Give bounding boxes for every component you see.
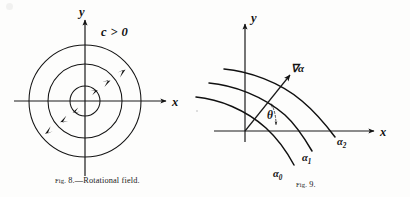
fig8-x-axis-label: x: [171, 95, 178, 109]
fig8-arrow-middle-upper: [103, 80, 111, 87]
fig9-angle-label: θ: [267, 109, 273, 121]
fig8-arrow-middle-lower: [60, 116, 68, 123]
fig9-label-alpha0: α0: [273, 168, 283, 182]
fig8-y-axis-label: y: [77, 5, 85, 19]
fig9-x-axis-label: x: [379, 125, 386, 139]
fig9-level-curve-labels: α2 α1 α0: [273, 136, 347, 182]
figures-canvas: x y c > 0 x y: [0, 0, 410, 197]
figure-8-group: x y c > 0: [14, 5, 178, 176]
figure-9-caption: Fig. 9.: [296, 180, 316, 189]
fig8-arrow-outer-lower: [45, 126, 53, 134]
figure-9-group: x y ∇α θ α2 α1 α0: [196, 11, 386, 182]
fig9-gradient-label: ∇α: [291, 62, 305, 74]
fig9-y-axis-label: y: [249, 11, 257, 25]
figure-8-caption-prefix: Fig.: [55, 177, 66, 184]
figure-8-caption: Fig. 8.—Rotational field.: [55, 176, 140, 185]
fig9-level-curve-alpha2: [224, 69, 335, 137]
figure-9-caption-prefix: Fig.: [296, 181, 307, 188]
figure-9-caption-num: 9.: [309, 180, 316, 189]
figure-page: x y c > 0 x y: [0, 0, 410, 197]
fig8-arrow-outer-upper: [118, 70, 126, 78]
figure-8-caption-text: —Rotational field.: [75, 176, 140, 185]
fig9-gradient-vector: [245, 75, 290, 131]
fig9-label-alpha1: α1: [302, 152, 311, 166]
fig9-label-alpha2: α2: [337, 136, 347, 150]
fig9-level-curve-alpha1: [209, 83, 312, 151]
fig8-condition-label: c > 0: [101, 25, 129, 39]
